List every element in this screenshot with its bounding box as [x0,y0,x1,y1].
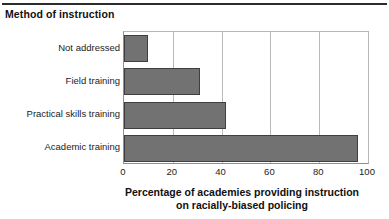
value-axis-title-line-1: Percentage of academies providing instru… [96,186,388,199]
x-tick-label: 0 [120,166,125,177]
category-label: Not addressed [0,42,120,53]
value-axis-title-line-2: on racially-biased policing [96,199,388,212]
bar-row [124,35,370,62]
bar[interactable] [124,68,200,95]
x-tick-label: 60 [264,166,275,177]
bar-row [124,102,370,129]
value-axis-tick-labels: 020406080100 [0,166,389,180]
category-axis-labels: Not addressedField trainingPractical ski… [0,31,120,164]
x-tick-label: 20 [167,166,178,177]
x-tick-label: 100 [359,166,375,177]
chart-category-axis-title: Method of instruction [5,8,114,20]
bar-row [124,135,370,162]
plot-area [123,31,369,164]
category-label: Field training [0,75,120,86]
category-label: Academic training [0,141,120,152]
value-axis-title: Percentage of academies providing instru… [96,186,388,212]
x-tick-label: 40 [215,166,226,177]
header-rule [2,3,387,5]
bar[interactable] [124,135,358,162]
bar-row [124,68,370,95]
bar[interactable] [124,102,226,129]
bar[interactable] [124,35,148,62]
bar-chart: Method of instruction Not addressedField… [0,0,389,219]
category-label: Practical skills training [0,108,120,119]
x-tick-label: 80 [313,166,324,177]
